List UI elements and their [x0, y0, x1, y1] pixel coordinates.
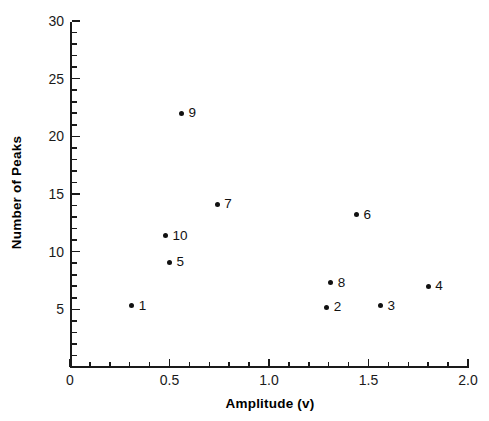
- x-tick-major: [368, 359, 370, 367]
- x-tick-label: 0: [40, 372, 100, 388]
- x-tick-minor: [149, 362, 151, 367]
- y-tick-label-wrap: 25: [18, 72, 64, 86]
- y-tick-minor: [72, 43, 77, 45]
- data-point-marker[interactable]: [328, 280, 333, 285]
- x-tick-minor: [308, 362, 310, 367]
- y-tick-major: [72, 20, 80, 22]
- y-tick-minor: [72, 147, 77, 149]
- x-tick-label: 2.0: [438, 372, 489, 388]
- y-tick-minor: [72, 32, 77, 34]
- x-tick-label-wrap: 0.5: [140, 372, 200, 388]
- data-point-marker[interactable]: [179, 111, 184, 116]
- data-point-label: 6: [364, 208, 372, 222]
- y-tick-minor: [72, 112, 77, 114]
- data-point-label: 4: [435, 279, 443, 293]
- data-point-label: 1: [139, 299, 147, 313]
- y-tick-label-wrap: 15: [18, 187, 64, 201]
- y-tick-minor: [72, 124, 77, 126]
- y-tick-minor: [72, 297, 77, 299]
- x-tick-major: [169, 359, 171, 367]
- data-point-marker[interactable]: [163, 233, 168, 238]
- y-axis-title: Number of Peaks: [9, 93, 24, 293]
- y-tick-minor: [72, 66, 77, 68]
- x-tick-major: [69, 359, 71, 367]
- data-point-label: 7: [224, 197, 232, 211]
- data-point-marker[interactable]: [378, 303, 383, 308]
- x-tick-minor: [288, 362, 290, 367]
- x-tick-minor: [129, 362, 131, 367]
- y-tick-major: [72, 251, 80, 253]
- y-tick-major: [72, 193, 80, 195]
- y-tick-minor: [72, 285, 77, 287]
- y-tick-label-wrap: 5: [18, 302, 64, 316]
- y-tick-minor: [72, 343, 77, 345]
- data-point-label: 3: [387, 299, 395, 313]
- y-tick-minor: [72, 170, 77, 172]
- data-point-label: 10: [173, 229, 188, 243]
- data-point-marker[interactable]: [324, 305, 329, 310]
- y-tick-major: [72, 136, 80, 138]
- x-tick-label: 0.5: [140, 372, 200, 388]
- x-tick-minor: [189, 362, 191, 367]
- y-tick-minor: [72, 228, 77, 230]
- data-point-marker[interactable]: [354, 212, 359, 217]
- y-tick-minor: [72, 55, 77, 57]
- y-tick-label: 15: [24, 187, 64, 201]
- y-tick-minor: [72, 239, 77, 241]
- x-tick-minor: [109, 362, 111, 367]
- y-tick-label-wrap: 10: [18, 245, 64, 259]
- y-axis-line: [70, 22, 72, 368]
- y-tick-minor: [72, 320, 77, 322]
- data-point-marker[interactable]: [426, 284, 431, 289]
- x-axis-title: Amplitude (v): [170, 396, 370, 411]
- x-tick-label: 1.0: [239, 372, 299, 388]
- data-point-marker[interactable]: [215, 202, 220, 207]
- y-tick-label: 30: [24, 14, 64, 28]
- x-tick-label-wrap: 1.5: [339, 372, 399, 388]
- x-tick-label-wrap: 2.0: [438, 372, 489, 388]
- y-tick-label-wrap: 20: [18, 129, 64, 143]
- y-tick-label: 20: [24, 129, 64, 143]
- y-tick-label-wrap: 30: [18, 14, 64, 28]
- x-tick-minor: [89, 362, 91, 367]
- data-point-marker[interactable]: [167, 260, 172, 265]
- data-point-label: 9: [188, 106, 196, 120]
- y-tick-label: 5: [24, 302, 64, 316]
- x-tick-minor: [447, 362, 449, 367]
- scatter-chart: 51015202530 00.51.01.52.0 12345678910 Am…: [0, 0, 489, 421]
- y-tick-major: [72, 309, 80, 311]
- data-point-label: 8: [338, 276, 346, 290]
- data-point-label: 5: [177, 255, 185, 269]
- data-point-label: 2: [334, 300, 342, 314]
- y-tick-major: [72, 366, 80, 368]
- x-tick-minor: [209, 362, 211, 367]
- y-tick-minor: [72, 101, 77, 103]
- data-point-marker[interactable]: [129, 303, 134, 308]
- y-tick-major: [72, 78, 80, 80]
- y-tick-minor: [72, 89, 77, 91]
- y-tick-minor: [72, 274, 77, 276]
- y-tick-minor: [72, 159, 77, 161]
- x-tick-minor: [408, 362, 410, 367]
- y-tick-minor: [72, 262, 77, 264]
- x-tick-minor: [427, 362, 429, 367]
- x-tick-major: [467, 359, 469, 367]
- y-tick-minor: [72, 355, 77, 357]
- x-tick-label-wrap: 0: [40, 372, 100, 388]
- x-tick-minor: [388, 362, 390, 367]
- y-tick-minor: [72, 205, 77, 207]
- x-tick-minor: [348, 362, 350, 367]
- x-tick-label: 1.5: [339, 372, 399, 388]
- x-tick-label-wrap: 1.0: [239, 372, 299, 388]
- y-tick-minor: [72, 332, 77, 334]
- y-tick-minor: [72, 182, 77, 184]
- x-tick-major: [268, 359, 270, 367]
- y-tick-label: 25: [24, 72, 64, 86]
- y-tick-minor: [72, 216, 77, 218]
- x-tick-minor: [228, 362, 230, 367]
- y-tick-label: 10: [24, 245, 64, 259]
- x-tick-minor: [248, 362, 250, 367]
- x-tick-minor: [328, 362, 330, 367]
